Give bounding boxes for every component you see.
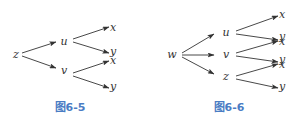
arrow-z-to-x xyxy=(236,64,278,76)
arrow-u-to-x xyxy=(236,16,278,31)
arrow-z-to-y xyxy=(236,79,278,88)
arrow-z-to-v xyxy=(22,56,56,68)
variable-node-z: z xyxy=(12,48,19,61)
arrow-w-to-z xyxy=(182,57,214,74)
variable-node-u: u xyxy=(222,26,229,39)
arrow-v-to-x xyxy=(236,41,278,53)
figure-6-6-tree: wuvzxyxyxy xyxy=(167,8,286,93)
variable-node-u: u xyxy=(60,35,67,48)
variable-node-vx: x xyxy=(279,35,286,48)
arrow-u-to-y xyxy=(73,42,109,53)
variable-node-z: z xyxy=(222,70,229,83)
arrow-u-to-x xyxy=(73,27,109,39)
variable-node-v: v xyxy=(223,48,230,61)
arrow-z-to-u xyxy=(22,42,56,53)
arrow-u-to-y xyxy=(236,34,278,40)
variable-node-zy: y xyxy=(278,80,286,93)
arrow-v-to-y xyxy=(73,76,109,88)
variable-node-ux: x xyxy=(110,21,117,34)
tree-diagrams: zuvxyxy wuvzxyxyxy xyxy=(0,0,296,118)
variable-node-w: w xyxy=(167,48,177,61)
variable-node-ux: x xyxy=(279,8,286,21)
arrow-v-to-x xyxy=(73,61,109,73)
figure-6-5-tree: zuvxyxy xyxy=(12,21,117,93)
variable-node-v: v xyxy=(61,64,68,77)
variable-node-vx: x xyxy=(110,54,117,67)
variable-node-zx: x xyxy=(279,58,286,71)
figure-6-5-caption: 图6-5 xyxy=(55,98,86,114)
variable-node-vy: y xyxy=(109,80,117,93)
figure-6-6-caption: 图6-6 xyxy=(214,98,245,114)
arrow-w-to-u xyxy=(182,34,214,53)
arrow-v-to-y xyxy=(236,56,278,62)
